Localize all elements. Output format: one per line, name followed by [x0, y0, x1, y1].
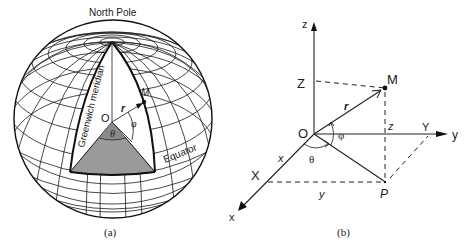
x-axis-label: x: [229, 211, 235, 223]
sphere-diagram: North Pole Greenwich meridian Equator O …: [2, 7, 222, 239]
point-P: [384, 181, 386, 183]
origin-O-label-b: O: [298, 126, 308, 141]
phi-label: φ: [131, 118, 137, 129]
caption-b: (b): [337, 226, 350, 239]
x-segment-label: x: [277, 152, 284, 164]
y-axis-label: y: [452, 128, 458, 142]
caption-a: (a): [104, 226, 117, 239]
north-pole-label: North Pole: [89, 7, 137, 18]
Z-coordinate-label: Z: [297, 76, 305, 91]
z-segment-label: z: [387, 120, 394, 132]
radius-r-label-b: r: [344, 100, 349, 112]
y-axis-arrow-icon: [436, 131, 448, 137]
point-M-label-b: M: [387, 72, 398, 87]
point-M-label: M: [141, 87, 150, 98]
x-axis-arrow-icon: [238, 201, 247, 211]
z-axis-arrow-icon: [311, 22, 317, 31]
X-coordinate-label: X: [251, 168, 260, 183]
theta-label: θ: [110, 128, 115, 139]
theta-label-b: θ: [309, 153, 314, 165]
point-P-label: P: [380, 187, 388, 201]
Y-coordinate-label: Y: [422, 121, 430, 133]
y-segment-label: y: [318, 188, 326, 200]
origin-O-label: O: [101, 112, 110, 124]
coordinate-diagram: z y x Z Y X O M P r φ θ x y z (b): [229, 18, 458, 239]
phi-label-b: φ: [338, 129, 344, 141]
z-axis-label: z: [302, 18, 308, 30]
point-M: [142, 100, 146, 104]
